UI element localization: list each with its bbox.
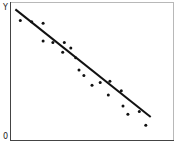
data-point <box>107 94 110 97</box>
data-point <box>78 69 81 72</box>
trend-line <box>15 9 150 117</box>
data-point <box>122 105 125 108</box>
y-axis-label: Y <box>3 4 8 12</box>
origin-label: 0 <box>3 133 8 141</box>
data-point <box>42 22 45 25</box>
data-point <box>126 113 129 116</box>
data-point <box>91 84 94 87</box>
scatter-chart <box>0 0 176 143</box>
data-point <box>144 124 147 127</box>
data-point <box>61 51 64 54</box>
data-point <box>42 40 45 43</box>
data-points <box>19 19 148 127</box>
data-point <box>19 19 22 22</box>
data-point <box>99 81 102 84</box>
data-point <box>63 41 66 44</box>
data-point <box>108 80 111 83</box>
data-point <box>82 74 85 77</box>
data-point <box>51 41 54 44</box>
data-point <box>69 47 72 50</box>
data-point <box>138 110 141 113</box>
